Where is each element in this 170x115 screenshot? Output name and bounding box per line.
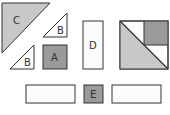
piece-d-label: D	[89, 40, 97, 51]
piece-e-label: E	[90, 89, 96, 100]
piece-b-upper-label: B	[57, 25, 64, 36]
piece-a-label: A	[51, 52, 58, 63]
rect-right-shape	[112, 85, 161, 103]
piece-b-upper: B	[43, 13, 67, 37]
composite-dark-square	[144, 21, 168, 45]
piece-b-lower: B	[10, 45, 34, 69]
piece-e: E	[84, 85, 103, 103]
piece-b-lower-label: B	[24, 57, 31, 68]
tangram-diagram: C B B A D E	[0, 0, 170, 115]
rect-left-shape	[26, 85, 75, 103]
composite-square	[120, 21, 168, 69]
piece-a: A	[43, 45, 67, 69]
piece-d: D	[83, 21, 103, 69]
piece-c-label: C	[13, 15, 20, 26]
